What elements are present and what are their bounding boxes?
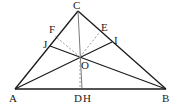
- label-i: I: [114, 34, 118, 46]
- label-c: C: [73, 0, 80, 11]
- label-o: O: [81, 59, 89, 71]
- label-f: F: [49, 23, 55, 35]
- segment-bj: [50, 46, 166, 89]
- label-d: D: [74, 92, 82, 104]
- label-a: A: [9, 92, 17, 104]
- label-j: J: [43, 38, 48, 50]
- label-h: H: [83, 92, 91, 104]
- triangle-diagram: C F E J I O A D H B: [0, 0, 179, 106]
- label-b: B: [162, 92, 169, 104]
- segment-ac: [15, 11, 78, 89]
- segment-ai: [15, 42, 112, 89]
- segment-bc: [78, 11, 166, 89]
- dashed-of: [55, 36, 80, 57]
- label-e: E: [101, 21, 108, 33]
